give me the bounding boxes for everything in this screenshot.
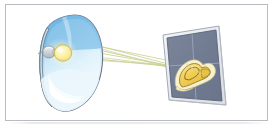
diagram-svg bbox=[0, 0, 273, 129]
diagram-scene bbox=[0, 0, 273, 129]
optical-diagram-screenshot bbox=[0, 0, 273, 129]
reflector-assembly bbox=[34, 15, 106, 121]
bulb-glass bbox=[54, 45, 71, 61]
screen-assembly bbox=[163, 26, 226, 105]
